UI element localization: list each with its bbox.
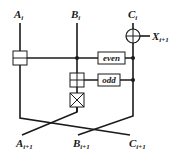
odd-box: odd [98, 74, 120, 86]
output-label-a: Ai+1 [15, 137, 33, 151]
output-label-b: Bi+1 [72, 137, 90, 151]
wire-b-to-a-out [22, 107, 77, 135]
even-box: even [98, 52, 125, 64]
cross-box-icon [70, 93, 84, 107]
circuit-diagram: Ai Bi Ci Xi+1 even odd [0, 0, 186, 155]
svg-text:odd: odd [102, 75, 116, 85]
input-label-a: Ai [13, 8, 23, 22]
svg-text:even: even [103, 53, 120, 63]
junction-dot [75, 56, 79, 60]
input-label-b: Bi [70, 8, 80, 22]
input-label-c: Ci [128, 8, 137, 22]
xor-gate-icon [126, 29, 140, 43]
split-box-icon [13, 51, 27, 65]
wire-a-to-c-out [20, 114, 130, 135]
output-label-c: Ci+1 [129, 137, 146, 151]
plus-box-icon [70, 73, 84, 87]
junction-dot [131, 56, 135, 60]
junction-dot [131, 78, 135, 82]
xor-output-label: Xi+1 [151, 30, 169, 44]
